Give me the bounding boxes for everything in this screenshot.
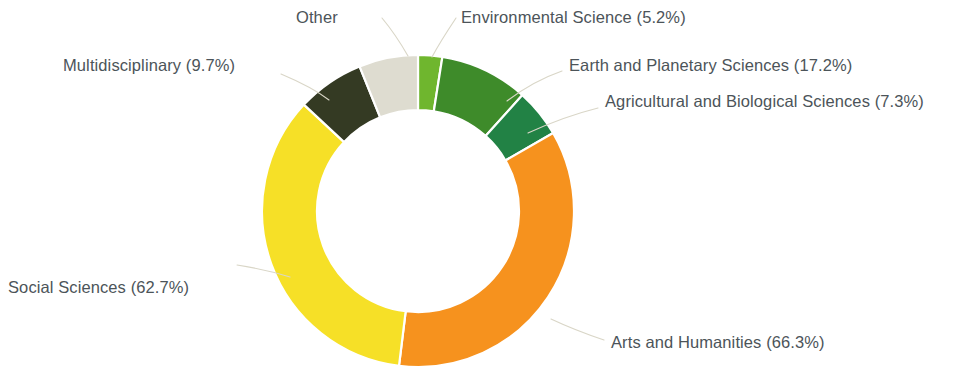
leader-environmental-science bbox=[432, 18, 456, 57]
slice-label-agricultural-and-biological-sciences: Agricultural and Biological Sciences (7.… bbox=[605, 92, 924, 110]
slice-label-environmental-science: Environmental Science (5.2%) bbox=[461, 8, 686, 26]
slice-label-arts-and-humanities: Arts and Humanities (66.3%) bbox=[611, 333, 825, 351]
slice-label-multidisciplinary: Multidisciplinary (9.7%) bbox=[63, 56, 235, 74]
slice-label-earth-and-planetary-sciences: Earth and Planetary Sciences (17.2%) bbox=[569, 56, 852, 74]
slice-arts-and-humanities[interactable] bbox=[399, 133, 574, 367]
leader-arts-and-humanities bbox=[551, 319, 604, 340]
donut-chart: Other Environmental Science (5.2%) Multi… bbox=[0, 0, 976, 377]
slice-social-sciences[interactable] bbox=[262, 105, 406, 366]
slice-label-social-sciences: Social Sciences (62.7%) bbox=[8, 278, 189, 296]
donut-ring bbox=[262, 55, 574, 367]
slice-label-other: Other bbox=[296, 8, 338, 26]
leader-other bbox=[382, 18, 408, 56]
